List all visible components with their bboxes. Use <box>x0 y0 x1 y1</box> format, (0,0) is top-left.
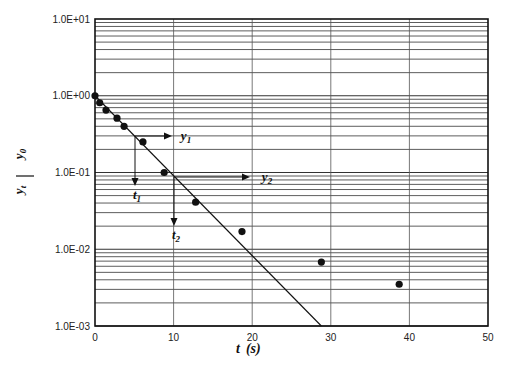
data-point <box>396 281 403 288</box>
x-tick-label: 40 <box>404 332 416 343</box>
annotation-t2: t2 <box>172 227 181 244</box>
grid <box>95 19 488 326</box>
y-tick-label: 1.0E-02 <box>55 244 90 255</box>
x-axis-label: t(s) <box>236 341 261 357</box>
data-point <box>102 107 109 114</box>
data-point <box>139 138 146 145</box>
data-point <box>96 99 103 106</box>
x-tick-labels: 01020304050 <box>92 332 494 343</box>
annotation-y1: y1 <box>179 128 191 145</box>
x-tick-label: 0 <box>92 332 98 343</box>
x-tick-label: 30 <box>325 332 337 343</box>
y-tick-label: 1.0E+01 <box>52 14 90 25</box>
data-point <box>91 92 98 99</box>
data-point <box>120 123 127 130</box>
data-series <box>91 92 402 326</box>
data-point <box>238 228 245 235</box>
data-point <box>113 115 120 122</box>
arrow-head <box>132 178 139 186</box>
y-tick-label: 1.0E-01 <box>55 167 90 178</box>
annotation-y2: y2 <box>260 169 273 186</box>
fitted-line <box>95 96 321 326</box>
arrow-head <box>242 174 250 181</box>
y-tick-labels: 1.0E-031.0E-021.0E-011.0E+001.0E+01 <box>52 14 90 332</box>
svg-text:yt: yt <box>11 185 28 196</box>
y-tick-label: 1.0E-03 <box>55 321 90 332</box>
arrow-head <box>164 133 172 140</box>
x-tick-label: 10 <box>168 332 180 343</box>
data-point <box>161 169 168 176</box>
arrow-head <box>171 218 178 226</box>
annotations: y1t1y2t2 <box>132 128 273 244</box>
svg-text:y0: y0 <box>11 148 28 161</box>
chart: 1.0E-031.0E-021.0E-011.0E+001.0E+01 0102… <box>0 0 511 370</box>
data-point <box>318 259 325 266</box>
data-point <box>192 199 199 206</box>
x-tick-label: 50 <box>482 332 494 343</box>
y-axis-label: yt y0 <box>11 148 34 196</box>
y-tick-label: 1.0E+00 <box>52 90 90 101</box>
